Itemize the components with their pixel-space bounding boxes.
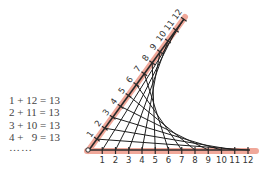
horizontal-axis-label: 6 (166, 155, 171, 165)
horizontal-axis-label: 3 (126, 155, 131, 165)
origin-point (86, 148, 90, 152)
horizontal-axis-label: 11 (229, 155, 240, 165)
horizontal-axis-label: 9 (206, 155, 211, 165)
stitching-diagram: 112233445566778899101011111212 (0, 0, 273, 177)
axis-labels: 112233445566778899101011111212 (84, 7, 253, 165)
horizontal-axis-label: 1 (100, 155, 105, 165)
horizontal-axis-label: 5 (153, 155, 158, 165)
horizontal-axis-label: 4 (139, 155, 144, 165)
horizontal-axis-label: 7 (179, 155, 184, 165)
horizontal-axis-label: 12 (243, 155, 254, 165)
horizontal-axis-label: 10 (216, 155, 227, 165)
horizontal-axis-label: 2 (113, 155, 118, 165)
horizontal-axis-label: 8 (192, 155, 197, 165)
